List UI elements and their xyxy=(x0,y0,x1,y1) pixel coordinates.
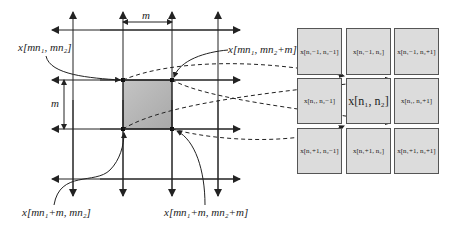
neighbor-cell-top-left: x[n₁−1, n₂−1] xyxy=(297,28,342,75)
top-right-sample-label: x[mn₁, mn₂+m] xyxy=(228,44,297,55)
neighbor-cell-top-center: x[n₁−1, n₂] xyxy=(346,28,391,75)
block-width-label: m xyxy=(142,10,150,21)
bottom-right-sample-label: x[mn₁+m, mn₂+m] xyxy=(164,207,248,218)
bottom-left-sample-label: x[mn₁+m, mn₂] xyxy=(22,207,91,218)
top-left-sample-label: x[mn₁, mn₂] xyxy=(18,42,71,53)
block-height-label: m xyxy=(51,98,59,109)
neighbor-cell-bottom-right: x[n₁+1, n₂+1] xyxy=(394,128,439,174)
neighbor-cell-bottom-left: x[n₁+1, n₂−1] xyxy=(297,128,342,174)
shaded-block xyxy=(123,80,172,129)
neighbor-cell-middle-right: x[n₁, n₂+1] xyxy=(394,78,439,124)
neighbor-cell-center: x[n₁, n₂] xyxy=(346,78,391,124)
neighbor-cell-middle-left: x[n₁, n₂−1] xyxy=(297,78,342,124)
neighbor-cell-bottom-center: x[n₁+1, n₂] xyxy=(346,128,391,174)
neighbor-cell-top-right: x[n₁−1, n₂+1] xyxy=(394,28,439,75)
